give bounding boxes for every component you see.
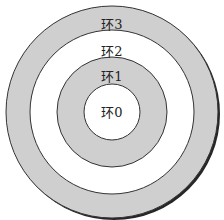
ring-1-label: 环1 xyxy=(101,66,122,85)
ring-0-label: 环0 xyxy=(101,102,122,121)
ring-2-label: 环2 xyxy=(101,41,122,60)
ring-3-label: 环3 xyxy=(101,14,122,33)
